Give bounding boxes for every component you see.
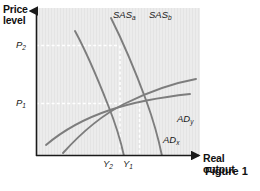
ad-x-label-sub: x [176,139,179,146]
ad-x-label-base: AD [163,134,176,145]
sas-a-label-base: SAS [113,9,132,20]
ad-y-label-base: AD [177,113,190,124]
ad-y-label-sub: y [190,118,193,125]
y-tick-p1-sub: 1 [22,102,26,109]
x-tick-y2-sub: 2 [109,163,113,170]
x-tick-y1: Y1 [123,159,133,169]
y-axis-title: Price level [3,4,28,26]
y-tick-p1: P1 [16,98,26,108]
ad-x-label: ADx [163,135,179,145]
ad-y-label: ADy [177,114,193,124]
y-tick-p2: P2 [16,40,26,50]
figure-container: Price level Real output Figure 1 P2 P1 Y… [0,0,260,191]
sas-b-label: SASb [149,10,172,20]
figure-caption: Figure 1 [205,166,248,178]
sas-a-label: SASa [113,10,136,20]
sas-b-label-base: SAS [149,9,168,20]
y-tick-p2-sub: 2 [22,44,26,51]
sas-a-label-sub: a [132,14,136,21]
x-tick-y2: Y2 [103,159,113,169]
x-tick-y1-sub: 1 [129,163,133,170]
sas-b-label-sub: b [168,14,172,21]
